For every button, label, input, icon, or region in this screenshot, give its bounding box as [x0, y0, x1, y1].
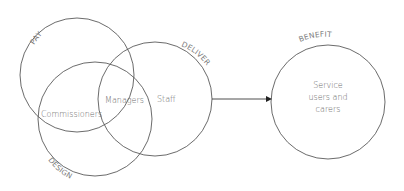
staff-label: Staff — [157, 95, 176, 104]
design-label: DESIGN — [46, 156, 74, 181]
benefit-text-line1: Service — [313, 81, 343, 90]
benefit-text-line3: carers — [316, 105, 341, 114]
benefit-circle — [271, 45, 385, 159]
benefit-label: BENEFIT — [297, 30, 332, 44]
deliver-label: DELIVER — [180, 40, 212, 68]
stakeholder-venn-diagram: PAY DELIVER DESIGN BENEFIT Commissioners… — [0, 0, 404, 191]
pay-label: PAY — [28, 29, 44, 46]
commissioners-label: Commissioners — [41, 110, 102, 119]
managers-label: Managers — [105, 96, 144, 105]
benefit-text-line2: users and — [308, 93, 347, 102]
